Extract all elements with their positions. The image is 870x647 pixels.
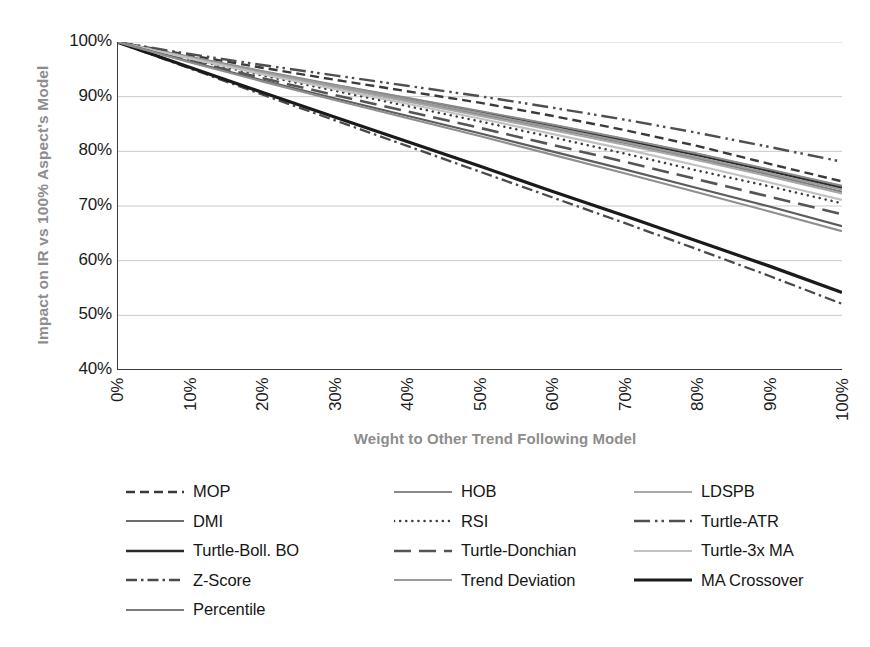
legend-line-swatch: [394, 514, 452, 528]
legend-item[interactable]: RSI: [394, 508, 488, 535]
y-tick-label: 100%: [4, 31, 112, 51]
x-tick-label-text: 10%: [181, 378, 201, 411]
chart-legend: MOPHOBLDSPBDMIRSITurtle-ATRTurtle-Boll. …: [126, 478, 856, 628]
legend-item[interactable]: DMI: [126, 508, 223, 535]
series-line: [117, 42, 842, 214]
legend-item[interactable]: MOP: [126, 478, 230, 505]
legend-line-swatch: [394, 485, 452, 499]
legend-item[interactable]: Z-Score: [126, 567, 251, 594]
x-tick-label-text: 30%: [326, 378, 346, 411]
legend-label: MA Crossover: [701, 571, 803, 590]
legend-item[interactable]: Turtle-Donchian: [394, 537, 576, 564]
legend-item[interactable]: MA Crossover: [634, 567, 803, 594]
x-tick-label-text: 80%: [688, 378, 708, 411]
x-tick-label-text: 50%: [471, 378, 491, 411]
legend-item[interactable]: Turtle-3x MA: [634, 537, 794, 564]
legend-label: DMI: [193, 512, 223, 531]
x-tick-label-text: 20%: [253, 378, 273, 411]
x-tick-label-text: 70%: [616, 378, 636, 411]
legend-label: LDSPB: [701, 482, 755, 501]
legend-label: Turtle-ATR: [701, 512, 779, 531]
x-tick-label-text: 100%: [833, 378, 853, 421]
legend-line-swatch: [634, 514, 692, 528]
y-tick-label: 50%: [4, 304, 112, 324]
legend-item[interactable]: Trend Deviation: [394, 567, 575, 594]
legend-item[interactable]: Turtle-Boll. BO: [126, 537, 299, 564]
plot-area: [117, 42, 842, 370]
y-tick-label: 90%: [4, 86, 112, 106]
legend-line-swatch: [634, 485, 692, 499]
x-tick-label-text: 40%: [398, 378, 418, 411]
chart-root: Impact on IR vs 100% Aspect's Model 100%…: [0, 0, 870, 647]
legend-line-swatch: [126, 573, 184, 587]
x-tick-label-text: 90%: [761, 378, 781, 411]
legend-label: Percentile: [193, 600, 265, 619]
y-tick-label: 70%: [4, 195, 112, 215]
y-tick-label: 80%: [4, 140, 112, 160]
legend-item[interactable]: Percentile: [126, 596, 265, 623]
legend-label: RSI: [461, 512, 488, 531]
y-tick-label: 40%: [4, 359, 112, 379]
legend-line-swatch: [634, 573, 692, 587]
legend-label: Turtle-Donchian: [461, 541, 576, 560]
legend-line-swatch: [394, 544, 452, 558]
legend-line-swatch: [126, 544, 184, 558]
legend-line-swatch: [126, 603, 184, 617]
legend-line-swatch: [394, 573, 452, 587]
legend-label: Turtle-3x MA: [701, 541, 794, 560]
y-axis-tick-labels: 100%90%80%70%60%50%40%: [0, 42, 112, 370]
y-tick-label: 60%: [4, 250, 112, 270]
legend-label: Trend Deviation: [461, 571, 575, 590]
legend-label: Z-Score: [193, 571, 251, 590]
legend-item[interactable]: Turtle-ATR: [634, 508, 779, 535]
legend-line-swatch: [634, 544, 692, 558]
x-tick-label-text: 60%: [543, 378, 563, 411]
legend-item[interactable]: LDSPB: [634, 478, 755, 505]
legend-label: Turtle-Boll. BO: [193, 541, 299, 560]
x-axis-title: Weight to Other Trend Following Model: [150, 430, 840, 447]
legend-label: HOB: [461, 482, 496, 501]
legend-label: MOP: [193, 482, 230, 501]
plot-svg: [117, 42, 842, 370]
legend-item[interactable]: HOB: [394, 478, 496, 505]
legend-line-swatch: [126, 514, 184, 528]
legend-line-swatch: [126, 485, 184, 499]
x-tick-label-text: 0%: [108, 378, 128, 402]
